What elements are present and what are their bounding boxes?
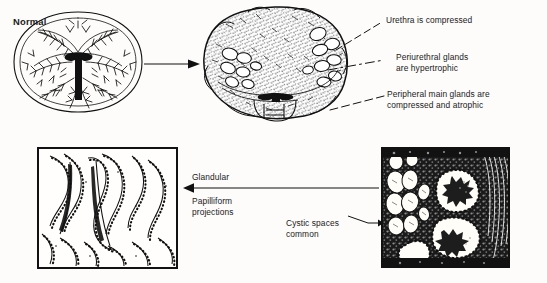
cystic-histology xyxy=(380,146,511,269)
label-periurethral-line1: Periurethral glands xyxy=(396,52,468,63)
leader-lines-group xyxy=(326,14,390,118)
leader-urethra xyxy=(336,22,382,50)
label-cystic-line1: Cystic spaces xyxy=(286,218,339,229)
label-glandular: Glandular xyxy=(192,172,229,183)
label-papilliform-line2: projections xyxy=(192,207,234,218)
figure-canvas: Normal xyxy=(0,0,547,283)
label-peripheral-line2: compressed and atrophic xyxy=(387,100,483,111)
label-papilliform-line1: Papilliform xyxy=(192,196,232,207)
label-cystic-line2: common xyxy=(286,229,319,240)
label-peripheral-line1: Peripheral main glands are xyxy=(387,89,490,100)
arrow-normal-to-hyperplastic xyxy=(144,55,202,73)
leader-cystic xyxy=(348,212,384,230)
label-urethra-compressed: Urethra is compressed xyxy=(386,15,472,26)
label-periurethral-line2: are hypertrophic xyxy=(396,63,458,74)
leader-peripheral xyxy=(330,96,384,110)
glandular-papilliform-histology xyxy=(36,146,179,270)
leader-periurethral xyxy=(328,60,384,70)
label-normal: Normal xyxy=(13,17,47,28)
